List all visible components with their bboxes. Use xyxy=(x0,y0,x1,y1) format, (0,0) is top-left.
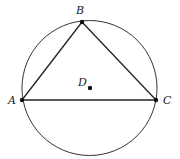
vertex-points xyxy=(20,20,158,102)
label-b: B xyxy=(75,4,84,17)
point-a xyxy=(20,98,24,102)
label-c: C xyxy=(163,94,172,107)
segment-bc xyxy=(82,22,156,100)
segment-ab xyxy=(22,22,82,100)
point-c xyxy=(154,98,158,102)
point-d xyxy=(88,86,92,90)
point-b xyxy=(80,20,84,24)
geometry-diagram: A B C D xyxy=(0,0,180,159)
label-a: A xyxy=(7,94,16,107)
label-d: D xyxy=(77,76,87,89)
